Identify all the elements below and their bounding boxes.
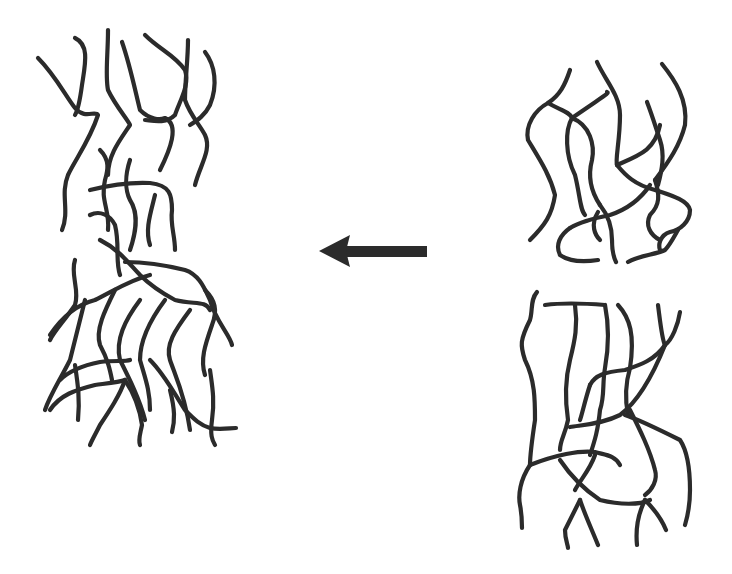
polymer-diagram: [0, 0, 732, 574]
merged-network: [38, 30, 236, 445]
arrow-left-icon: [319, 235, 427, 267]
lower-network: [519, 292, 690, 548]
upper-network: [527, 62, 690, 262]
